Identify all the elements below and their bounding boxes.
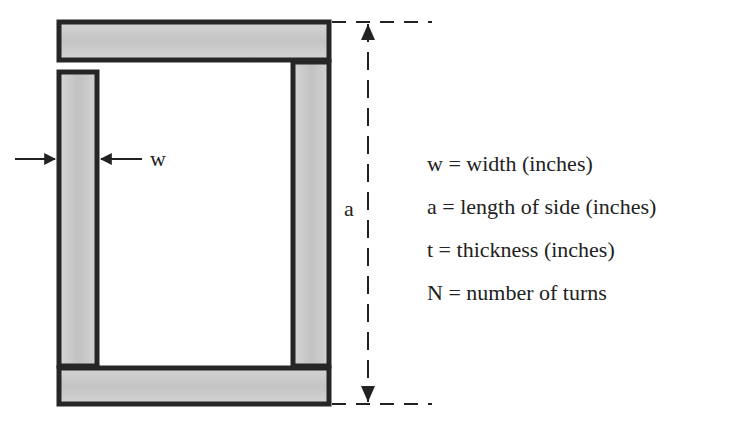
top-bar [59, 22, 329, 60]
legend-item-width: w = width (inches) [427, 142, 656, 185]
right-bar [293, 62, 329, 366]
legend: w = width (inches) a = length of side (i… [427, 142, 656, 314]
side-length-dimension [361, 24, 375, 402]
width-label: w [150, 146, 166, 172]
left-bar [59, 72, 97, 366]
side-length-label: a [344, 196, 354, 222]
legend-item-thickness: t = thickness (inches) [427, 228, 656, 271]
legend-item-side-length: a = length of side (inches) [427, 185, 656, 228]
legend-item-turns: N = number of turns [427, 271, 656, 314]
bottom-bar [59, 368, 329, 404]
